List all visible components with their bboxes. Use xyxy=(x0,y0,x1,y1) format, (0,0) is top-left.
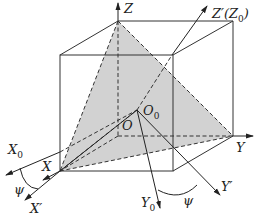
label-y: Y xyxy=(236,141,245,154)
label-x-prime: X′ xyxy=(30,202,42,215)
label-y-prime: Y′ xyxy=(221,180,233,193)
label-psi-right: ψ xyxy=(183,194,193,207)
label-z: Z xyxy=(124,2,133,15)
label-psi-left: ψ xyxy=(14,183,24,196)
label-z-prime: Z′(Z0) xyxy=(212,7,249,24)
diagram-graphics xyxy=(0,0,255,221)
coordinate-rotation-diagram: Z Z′(Z0) X0 X X′ ψ O O0 Y Y′ Y0 ψ xyxy=(0,0,255,221)
label-y0: Y0 xyxy=(141,196,155,213)
label-o: O xyxy=(122,119,133,132)
label-x0: X0 xyxy=(8,143,23,160)
label-x: X xyxy=(42,160,51,173)
label-o0: O0 xyxy=(143,104,159,121)
